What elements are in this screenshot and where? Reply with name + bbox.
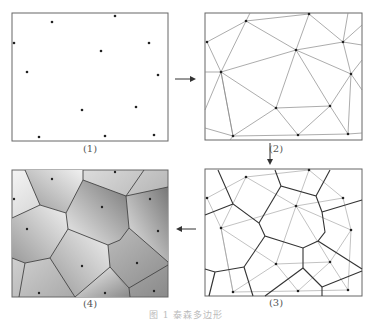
- figure-caption: 图 1 泰森多边形: [106, 308, 266, 321]
- panel-label-3: (3): [256, 297, 296, 308]
- arrow-left-icon: [176, 226, 196, 232]
- arrow-right-icon: [175, 76, 196, 82]
- panel-label-1: (1): [70, 143, 110, 154]
- panel-3-voronoi-overlay: [205, 169, 362, 296]
- panel-label-2: (2): [256, 143, 296, 154]
- panel-1-points: [12, 13, 168, 141]
- panel-2-triangulation: [205, 13, 362, 140]
- panel-4-voronoi-shaded: [12, 170, 168, 297]
- diagram-canvas: [0, 0, 372, 323]
- panel-label-4: (4): [70, 298, 110, 309]
